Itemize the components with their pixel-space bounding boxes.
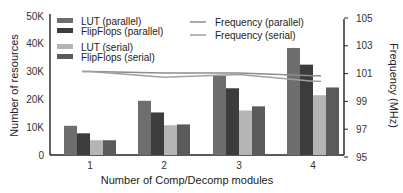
y2-tick-label: 103: [356, 40, 373, 51]
y-tick-label: 30K: [26, 66, 44, 77]
y2-tick-label: 105: [356, 13, 373, 24]
bar-flipflops-parallel-: [300, 65, 313, 155]
bar-flipflops-parallel-: [77, 133, 90, 155]
legend-swatch: [57, 54, 73, 59]
x-axis-title: Number of Comp/Decomp modules: [101, 174, 274, 186]
bar-lut-parallel-: [213, 76, 226, 155]
legend-swatch: [57, 44, 73, 49]
legend-swatch: [57, 18, 73, 23]
bar-lut-serial-: [164, 125, 177, 155]
legend-label: Frequency (parallel): [215, 17, 304, 28]
bar-flipflops-serial-: [326, 87, 339, 155]
x-tick-label: 4: [310, 160, 316, 171]
legend-label: FlipFlops (serial): [81, 52, 155, 63]
y2-axis-title: Frequency (MHz): [388, 43, 400, 128]
legend-label: Frequency (serial): [215, 30, 296, 41]
bar-lut-parallel-: [287, 48, 300, 155]
x-tick-label: 1: [87, 160, 93, 171]
y2-tick-label: 97: [356, 124, 368, 135]
legend-label: FlipFlops (parallel): [81, 26, 163, 37]
x-tick-label: 2: [161, 160, 167, 171]
plot-area: 010K20K30K40K50KNumber of resourcesNumbe…: [8, 11, 400, 187]
y-tick-label: 50K: [26, 11, 44, 22]
bar-flipflops-serial-: [252, 106, 265, 155]
bar-lut-serial-: [239, 111, 252, 155]
legend-swatch: [57, 28, 73, 33]
y2-tick-label: 101: [356, 68, 373, 79]
bar-flipflops-serial-: [103, 140, 116, 155]
bar-lut-serial-: [90, 140, 103, 155]
combo-chart: 010K20K30K40K50KNumber of resourcesNumbe…: [0, 0, 403, 193]
bar-lut-serial-: [313, 95, 326, 155]
y-tick-label: 0: [38, 150, 44, 161]
bar-flipflops-serial-: [177, 124, 190, 155]
bar-lut-parallel-: [64, 126, 77, 155]
y-axis-title: Number of resources: [8, 34, 20, 137]
y-tick-label: 10K: [26, 122, 44, 133]
bar-flipflops-parallel-: [226, 88, 239, 155]
y2-tick-label: 95: [356, 152, 368, 163]
bar-flipflops-parallel-: [151, 112, 164, 155]
y2-tick-label: 99: [356, 96, 368, 107]
y-tick-label: 20K: [26, 94, 44, 105]
y-tick-label: 40K: [26, 38, 44, 49]
x-tick-label: 3: [236, 160, 242, 171]
bar-lut-parallel-: [138, 101, 151, 155]
